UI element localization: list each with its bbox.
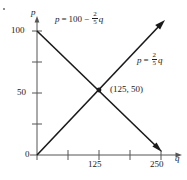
y-axis-tick-label-0: 0	[25, 150, 30, 159]
supply-eq-denominator: 5	[152, 59, 158, 67]
supply-eq-lhs: p	[137, 55, 142, 65]
supply-curve	[37, 20, 165, 155]
demand-eq-operator: −	[84, 14, 89, 24]
demand-eq-fraction: 2 5	[92, 11, 98, 27]
p-axis-label: p	[31, 8, 36, 17]
demand-eq-lhs: p	[55, 14, 60, 24]
demand-eq-variable: q	[99, 14, 104, 24]
supply-demand-graph: p q 100 50 0 125 250 p = 100 − 2 5 q p =…	[0, 0, 187, 180]
demand-eq-equals: =	[62, 14, 67, 24]
demand-eq-denominator: 5	[92, 18, 98, 26]
intersection-coordinate-label: (125, 50)	[110, 85, 143, 94]
q-axis-label: q	[175, 154, 180, 163]
demand-eq-intercept: 100	[69, 14, 83, 24]
x-axis-tick-label-125: 125	[88, 160, 102, 169]
intersection-point-marker	[97, 88, 102, 93]
demand-eq-numerator: 2	[92, 11, 98, 18]
supply-eq-fraction: 2 5	[152, 52, 158, 68]
supply-eq-numerator: 2	[152, 52, 158, 59]
x-axis-tick-label-250: 250	[150, 160, 164, 169]
demand-equation-label: p = 100 − 2 5 q	[55, 11, 103, 27]
supply-eq-equals: =	[144, 55, 149, 65]
supply-equation-label: p = 2 5 q	[137, 52, 163, 68]
y-axis-tick-label-100: 100	[11, 26, 25, 35]
y-axis-tick-label-50: 50	[17, 88, 26, 97]
supply-eq-variable: q	[158, 55, 163, 65]
